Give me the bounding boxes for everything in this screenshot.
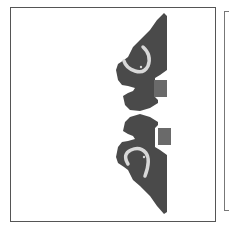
shoe-pair-drawing xyxy=(0,0,229,236)
upper-shoe xyxy=(116,13,167,111)
lower-shoe xyxy=(116,114,171,214)
upper-heel-block xyxy=(154,80,167,97)
upper-buckle xyxy=(140,66,142,68)
lower-heel-block xyxy=(158,128,171,145)
lower-buckle xyxy=(143,156,145,158)
